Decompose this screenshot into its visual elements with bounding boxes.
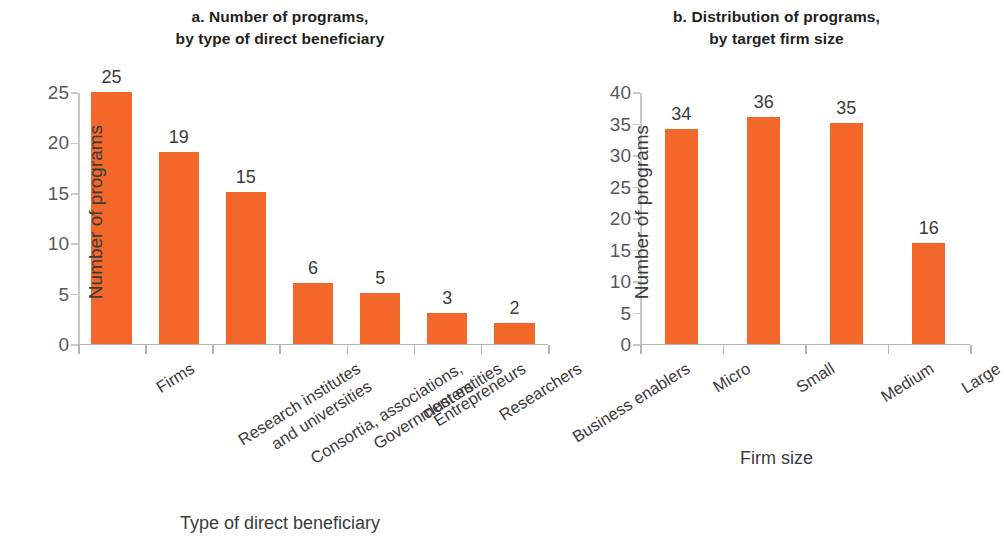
panel-a-title-line1: a. Number of programs, [0, 6, 560, 28]
bar: 15 [226, 192, 266, 343]
x-tick-mark [347, 345, 349, 354]
panel-a-plot-area: 0510152025 2519156532 Number of programs [78, 93, 548, 345]
bar: 16 [912, 243, 945, 344]
y-tick-mark [71, 143, 78, 145]
bar: 34 [665, 129, 698, 343]
y-tick-label: 0 [620, 334, 631, 356]
y-tick-label: 0 [58, 334, 69, 356]
x-tick-mark [78, 345, 80, 354]
bar-value-label: 19 [169, 127, 189, 148]
y-tick-mark [71, 294, 78, 296]
y-tick-label: 20 [610, 208, 631, 230]
x-tick-mark [481, 345, 483, 354]
x-tick-mark [970, 345, 972, 354]
bar-value-label: 34 [671, 104, 691, 125]
bar: 2 [494, 323, 534, 343]
panel-a-x-axis-label: Type of direct beneficiary [0, 513, 560, 534]
bar: 6 [293, 283, 333, 343]
bar-value-label: 16 [919, 218, 939, 239]
x-tick-mark [212, 345, 214, 354]
bar-value-label: 36 [754, 92, 774, 113]
x-category-label: Firms [152, 358, 198, 397]
panel-a-title: a. Number of programs, by type of direct… [0, 6, 560, 51]
y-tick-mark [71, 92, 78, 94]
panel-b-title-line2: by target firm size [560, 28, 993, 50]
panel-b-x-axis-label: Firm size [560, 448, 993, 469]
x-tick-mark [805, 345, 807, 354]
bar-value-label: 2 [509, 298, 519, 319]
x-tick-mark [888, 345, 890, 354]
panel-b-plot-area: 0510152025303540 34363516 Number of prog… [640, 93, 970, 345]
y-tick-label: 35 [610, 114, 631, 136]
x-tick-mark [414, 345, 416, 354]
y-tick-label: 25 [48, 82, 69, 104]
panel-a-y-axis-label: Number of programs [85, 62, 107, 362]
y-tick-label: 20 [48, 132, 69, 154]
panel-a-y-axis-line [78, 93, 80, 345]
x-tick-mark [145, 345, 147, 354]
panel-a-title-line2: by type of direct beneficiary [0, 28, 560, 50]
y-tick-mark [71, 344, 78, 346]
panel-b-y-axis-label: Number of programs [631, 62, 653, 362]
x-tick-mark [723, 345, 725, 354]
panel-b-title-line1: b. Distribution of programs, [560, 6, 993, 28]
y-tick-label: 15 [610, 240, 631, 262]
x-category-label-line: Firms [152, 358, 198, 397]
bar-value-label: 15 [236, 167, 256, 188]
y-tick-label: 10 [610, 271, 631, 293]
bar-value-label: 5 [375, 268, 385, 289]
bar-value-label: 3 [442, 288, 452, 309]
y-tick-label: 10 [48, 233, 69, 255]
bar: 5 [360, 293, 400, 343]
x-tick-mark [548, 345, 550, 354]
bar-value-label: 35 [836, 98, 856, 119]
y-tick-mark [71, 193, 78, 195]
bar-value-label: 6 [308, 258, 318, 279]
panel-a-x-axis-line [78, 344, 548, 346]
y-tick-label: 15 [48, 183, 69, 205]
chart-panel-a: a. Number of programs, by type of direct… [0, 0, 560, 557]
y-tick-label: 5 [58, 284, 69, 306]
bar: 35 [830, 123, 863, 344]
bar: 19 [159, 152, 199, 344]
bar: 3 [427, 313, 467, 343]
x-tick-mark [279, 345, 281, 354]
bar: 36 [747, 117, 780, 344]
y-tick-label: 30 [610, 145, 631, 167]
y-tick-label: 40 [610, 82, 631, 104]
y-tick-label: 5 [620, 303, 631, 325]
panel-b-title: b. Distribution of programs, by target f… [560, 6, 993, 51]
y-tick-mark [71, 243, 78, 245]
y-tick-label: 25 [610, 177, 631, 199]
